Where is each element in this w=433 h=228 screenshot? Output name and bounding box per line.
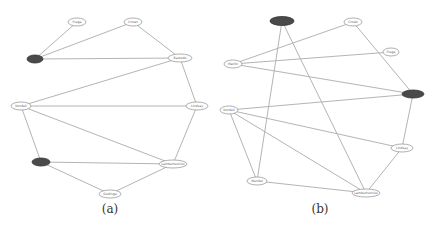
graph-edge [353,22,413,94]
graph-edge [257,21,282,181]
highlighted-node-ellipse [270,17,294,26]
graph-node: Lambertsonius [352,189,380,197]
node-label: Crown [128,20,138,24]
highlighted-node-ellipse [32,158,50,166]
graph-edge [233,64,413,94]
graph-edge [21,58,180,106]
graph-node: Fraga [383,48,399,56]
node-label: Bastedo [174,56,187,60]
node-layer: CrownFragaMartinNordellLindsayMendelLamb… [220,17,424,198]
node-label: Fraga [73,20,82,24]
graph-edge [229,110,402,148]
graph-node [32,158,50,166]
node-label: Lambertsonius [161,162,185,166]
graph-node: Nordell [11,102,31,110]
graph-node: Nordell [220,106,238,114]
node-label: Nordell [15,104,26,108]
graph-edge [229,110,257,181]
graph-node [27,55,43,63]
highlighted-node-ellipse [27,55,43,63]
node-label: Mendel [251,179,263,183]
graph-panel-a: FragaCrownBastedoNordellLindsayLambertso… [11,18,208,216]
node-label: Nordell [223,108,234,112]
graph-edge [35,22,133,59]
graph-panel-b: CrownFragaMartinNordellLindsayMendelLamb… [220,17,424,217]
graph-edge [35,22,77,59]
edge-layer [229,21,413,193]
node-label: Godinga [103,192,116,196]
graph-edge [110,164,173,194]
graph-node: Lindsay [391,144,413,152]
graph-edge [21,106,41,162]
node-label: Crown [348,20,358,24]
graph-edge [41,162,173,164]
graph-edge [21,106,173,164]
caption-b: (b) [311,202,328,216]
node-label: Fraga [387,50,396,54]
graph-node: Crown [124,18,142,26]
graph-edge [35,58,180,59]
graph-edge [133,22,180,58]
graph-edge [41,162,110,194]
graph-edge [180,58,197,106]
graph-node: Bastedo [168,54,192,62]
graph-edge [366,148,402,193]
graph-edge [173,106,197,164]
graph-node: Crown [344,18,362,26]
node-label: Lindsay [396,146,408,150]
highlighted-node-ellipse [402,90,424,98]
node-label: Martin [228,62,238,66]
node-label: Lambertsonius [354,191,378,195]
caption-a: (a) [102,202,119,216]
graph-edge [233,52,391,64]
graph-node: Mendel [247,177,267,185]
graph-node: Fraga [68,18,86,26]
graph-node [270,17,294,26]
graph-edge [402,94,413,148]
graph-edge [233,22,353,64]
graph-edge [229,94,413,110]
network-figure: FragaCrownBastedoNordellLindsayLambertso… [0,0,433,228]
graph-node: Martin [224,60,242,68]
node-layer: FragaCrownBastedoNordellLindsayLambertso… [11,18,208,198]
graph-node [402,90,424,98]
node-label: Lindsay [191,104,203,108]
graph-node: Lindsay [186,102,208,110]
graph-node: Godinga [99,190,121,198]
graph-node: Lambertsonius [159,160,187,168]
